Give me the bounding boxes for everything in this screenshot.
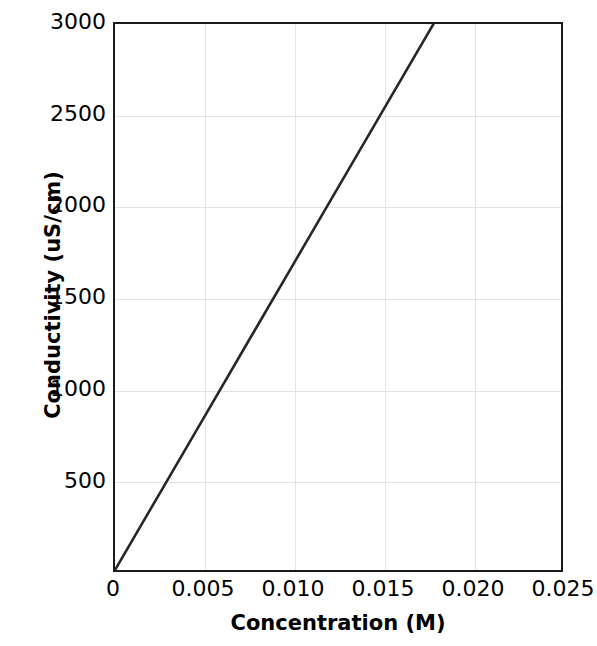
y-tick-label-2500: 2500: [50, 103, 106, 125]
conductivity-concentration-chart: Conductivity (uS/cm) Concentration (M) 3…: [0, 0, 597, 646]
y-tick-label-1000: 1000: [50, 378, 106, 400]
x-axis-title: Concentration (M): [113, 611, 563, 635]
y-tick-label-3000: 3000: [50, 11, 106, 33]
y-tick-label-1500: 1500: [50, 286, 106, 308]
y-tick-label-500: 500: [64, 470, 106, 492]
y-tick-label-2000: 2000: [50, 194, 106, 216]
data-line-conductivity: [115, 24, 433, 570]
plot-area: [113, 22, 563, 572]
x-tick-label-0.025: 0.025: [503, 578, 597, 600]
series-layer: [115, 24, 561, 570]
